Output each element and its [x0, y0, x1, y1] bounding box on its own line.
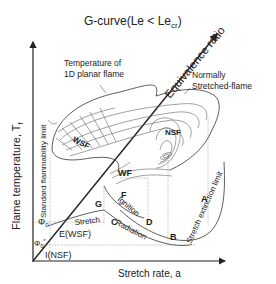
- diagram-title: G-curve(Le < Lecr): [84, 14, 182, 30]
- label-ignition: Ignition: [116, 195, 142, 218]
- label-radiation: Radiation: [114, 218, 148, 242]
- label-stretch: Stretch: [74, 215, 100, 227]
- point-g: G: [95, 199, 102, 209]
- y-axis-label: Flame temperature, Tf: [10, 122, 24, 230]
- region-wf: WF: [118, 168, 132, 178]
- point-a: A: [201, 194, 208, 204]
- g-curve-diagram: G-curve(Le < Lecr) Flame temperature, Tf…: [0, 0, 276, 284]
- planar-flame-annotation: Temperature of 1D planar flame: [64, 58, 124, 79]
- stretch-extinction-label: Stretch extinction limit: [185, 169, 225, 244]
- point-d: D: [146, 217, 153, 227]
- point-b: B: [170, 232, 177, 242]
- x-axis-label: Stretch rate, a: [118, 268, 181, 279]
- point-i: I(NSF): [45, 250, 72, 260]
- region-nsf: NSF: [165, 128, 181, 137]
- standard-flammability-limit-label: Standard flammability limit: [39, 124, 48, 218]
- point-e: E(WSF): [59, 229, 91, 239]
- normally-stretched-annotation: Normally Stretched-flame: [192, 70, 252, 91]
